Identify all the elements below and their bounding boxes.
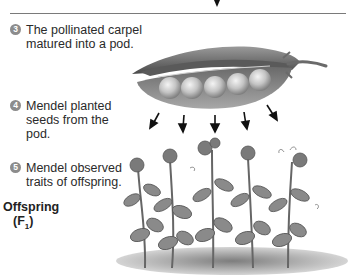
soil-icon — [116, 247, 348, 275]
pea-illustration — [0, 0, 356, 278]
pea-pod-icon — [132, 47, 326, 109]
down-arrow-icon — [150, 105, 277, 132]
